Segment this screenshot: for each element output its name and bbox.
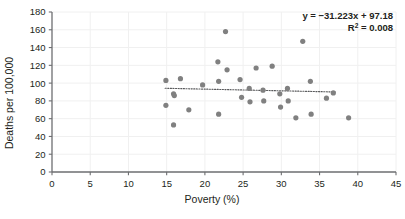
y-axis-tick-label: 20: [35, 149, 46, 160]
data-point: [278, 105, 283, 110]
data-point: [216, 79, 221, 84]
x-axis-tick-label: 15: [161, 178, 172, 189]
y-axis-tick-label: 100: [30, 78, 46, 89]
data-point: [254, 65, 259, 70]
data-point: [215, 59, 220, 64]
data-point: [163, 78, 168, 83]
x-axis-tick-label: 10: [123, 178, 134, 189]
data-point: [172, 93, 177, 98]
x-axis-tick-label: 20: [200, 178, 211, 189]
trendline-equation-label: y = −31.223x + 97.18: [302, 10, 393, 21]
data-point: [286, 98, 291, 103]
data-point: [270, 64, 275, 69]
x-axis-tick-label: 35: [314, 178, 325, 189]
data-point: [223, 29, 228, 34]
x-axis-tick-label: 0: [49, 178, 54, 189]
data-point: [300, 39, 305, 44]
y-axis-tick-label: 140: [30, 42, 46, 53]
y-axis-tick-label: 0: [40, 166, 45, 177]
y-axis-tick-label: 160: [30, 24, 46, 35]
data-point: [216, 112, 221, 117]
data-point: [261, 98, 266, 103]
scatter-chart: 020406080100120140160180 051015202530354…: [0, 0, 405, 219]
data-point: [224, 67, 229, 72]
data-point: [163, 103, 168, 108]
x-axis-tick-label: 5: [88, 178, 93, 189]
data-point: [285, 86, 290, 91]
data-point: [346, 115, 351, 120]
x-axis-tick-label: 40: [352, 178, 363, 189]
data-point: [247, 86, 252, 91]
data-point: [247, 99, 252, 104]
data-point: [186, 107, 191, 112]
data-point: [260, 88, 265, 93]
y-axis-tick-label: 120: [30, 60, 46, 71]
data-point: [308, 79, 313, 84]
data-point: [293, 115, 298, 120]
chart-canvas: 020406080100120140160180 051015202530354…: [0, 0, 405, 219]
y-axis-tick-label: 80: [35, 95, 46, 106]
r-squared-value: = 0.008: [358, 22, 393, 33]
data-point: [277, 91, 282, 96]
data-point: [178, 76, 183, 81]
data-point: [200, 82, 205, 87]
data-point: [309, 112, 314, 117]
y-axis-tick-label: 60: [35, 113, 46, 124]
y-axis-tick-label: 180: [30, 6, 46, 17]
data-point: [171, 122, 176, 127]
data-point: [324, 96, 329, 101]
data-point: [331, 90, 336, 95]
x-axis-title: Poverty (%): [185, 193, 240, 205]
r-squared-label: R2 = 0.008: [348, 22, 393, 34]
data-point: [237, 77, 242, 82]
x-axis-tick-label: 45: [391, 178, 402, 189]
y-axis-tick-label: 40: [35, 131, 46, 142]
y-axis-title: Deaths per 100,000: [3, 57, 15, 149]
data-point: [239, 95, 244, 100]
x-axis-tick-label: 25: [238, 178, 249, 189]
x-axis-tick-label: 30: [276, 178, 287, 189]
